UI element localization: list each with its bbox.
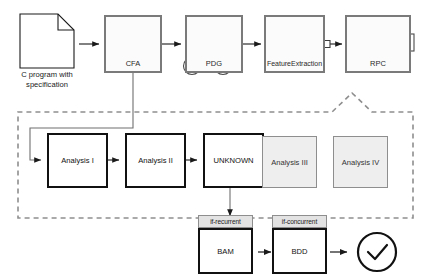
- analysis-label-analysis-2: Analysis II: [138, 156, 173, 165]
- analysis-label-analysis-3: Analysis III: [271, 158, 308, 167]
- condition-tag-if-recurrent-label: if-recurrent: [210, 218, 241, 225]
- condition-tag-if-concurrent: if-concurrent: [272, 215, 327, 228]
- condition-tag-if-concurrent-label: if-concurrent: [282, 218, 317, 225]
- document-page-icon: [20, 14, 74, 68]
- stage-label-pdg: PDG: [187, 59, 241, 68]
- stage-box-featureextraction[interactable]: FeatureExtraction: [264, 15, 325, 73]
- decision-box-bdd[interactable]: BDD: [272, 228, 327, 274]
- analysis-box-analysis-4[interactable]: Analysis IV: [333, 136, 388, 188]
- source-document-caption-line2: specification: [0, 80, 95, 90]
- stage-label-cfa: CFA: [106, 59, 160, 68]
- analysis-box-unknown[interactable]: UNKNOWN: [203, 133, 264, 188]
- stage-box-cfa[interactable]: CFA: [104, 15, 162, 73]
- stage-label-rpc: RPC: [347, 59, 409, 68]
- condition-tag-if-recurrent: if-recurrent: [198, 215, 253, 228]
- decision-box-bam[interactable]: BAM: [198, 228, 253, 274]
- analysis-label-analysis-1: Analysis I: [61, 156, 94, 165]
- decision-label-bdd: BDD: [291, 247, 307, 256]
- source-document-caption: C program with specification: [0, 70, 95, 90]
- stage-box-pdg[interactable]: PDG: [185, 15, 243, 73]
- stage-label-featureextraction: FeatureExtraction: [266, 59, 323, 68]
- analysis-label-analysis-4: Analysis IV: [342, 158, 380, 167]
- analysis-label-unknown: UNKNOWN: [213, 156, 253, 165]
- analysis-box-analysis-2[interactable]: Analysis II: [125, 133, 186, 188]
- check-circle-icon: [358, 233, 396, 271]
- decision-label-bam: BAM: [217, 247, 233, 256]
- diagram-canvas: C program with specification CFA PDG Fea…: [0, 0, 423, 279]
- stage-box-rpc[interactable]: RPC: [345, 15, 411, 73]
- analysis-box-analysis-3[interactable]: Analysis III: [262, 136, 317, 188]
- source-document-caption-line1: C program with: [0, 70, 95, 80]
- analysis-box-analysis-1[interactable]: Analysis I: [47, 133, 108, 188]
